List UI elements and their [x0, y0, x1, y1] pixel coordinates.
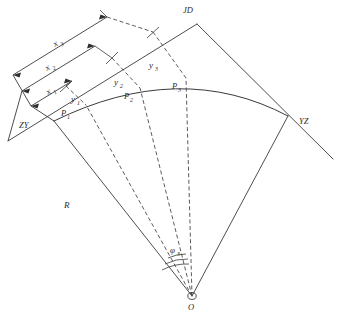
tick-foot-p3 [147, 27, 159, 38]
radius-line-p1 [86, 105, 192, 296]
dimension-line-x2 [22, 46, 95, 91]
guide-x1-origin [31, 106, 54, 121]
offset-line-y1 [66, 86, 86, 105]
label-y1-subscript: 1 [77, 100, 80, 106]
label-y3: y [148, 60, 153, 70]
label-p1-group: P 1 [60, 108, 70, 120]
angle-arc-phi2 [165, 259, 188, 264]
label-p3-group: P 3 [171, 81, 181, 93]
label-zy: ZY [19, 120, 30, 130]
label-p1: P [60, 108, 66, 118]
label-x1-subscript: 1 [52, 89, 58, 96]
label-p3: P [171, 81, 177, 91]
label-p1-subscript: 1 [67, 114, 70, 120]
radius-line-yz [192, 116, 288, 296]
label-y3-subscript: 3 [154, 66, 158, 72]
label-x3-group: x 3 [50, 36, 65, 51]
label-y1: y [70, 94, 75, 104]
circular-curve-arc [54, 89, 288, 121]
label-y2-group: y 2 [113, 77, 123, 89]
label-phi-subscript: 3 [176, 251, 180, 257]
circular-curve-diagram: ZY JD YZ O R P 1 P 2 P 3 y 1 y [0, 0, 341, 320]
label-p3-subscript: 3 [177, 87, 181, 93]
radius-line-p2 [140, 88, 192, 296]
label-x2-group: x 2 [42, 60, 57, 75]
tick-x2 [95, 46, 112, 58]
arrow-head-x1-end [64, 79, 72, 84]
label-x1: x [43, 86, 52, 97]
tick-foot-p2 [106, 52, 118, 64]
guide-x3-to-tangent [107, 17, 153, 32]
label-x2: x [42, 62, 51, 73]
arrow-head-x2-end [87, 44, 95, 49]
label-p2-subscript: 2 [130, 97, 133, 103]
label-y2: y [113, 77, 118, 87]
radius-line-zy [54, 121, 192, 296]
label-x1-group: x 1 [43, 84, 58, 99]
label-yz: YZ [299, 116, 309, 126]
label-p2-group: P 2 [123, 91, 133, 103]
diagram-canvas: ZY JD YZ O R P 1 P 2 P 3 y 1 y [0, 0, 341, 320]
label-o: O [188, 302, 194, 312]
label-y3-group: y 3 [148, 60, 158, 72]
arrow-head-x1-start [31, 104, 39, 109]
label-jd: JD [183, 5, 194, 15]
label-radius: R [63, 200, 70, 210]
label-p2: P [123, 91, 129, 101]
radius-line-p3 [186, 78, 192, 296]
label-phi: φ [170, 245, 175, 255]
label-y2-subscript: 2 [120, 83, 123, 89]
